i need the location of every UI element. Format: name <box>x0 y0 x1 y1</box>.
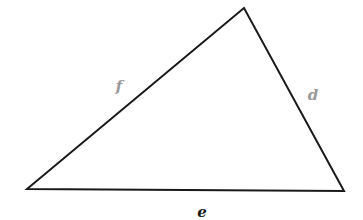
triangle-diagram: f d e <box>0 0 363 220</box>
side-label-d: d <box>308 86 319 104</box>
triangle-shape <box>27 8 344 191</box>
side-label-f: f <box>115 77 125 95</box>
side-label-e: e <box>197 203 207 220</box>
